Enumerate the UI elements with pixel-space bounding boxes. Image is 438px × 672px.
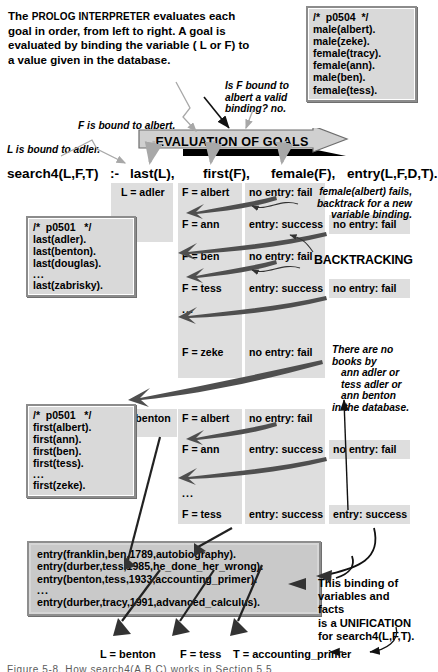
cell-first-p1-r3: F = ben xyxy=(182,250,219,262)
fact-line: first(ben). xyxy=(33,445,129,457)
evaluation-banner: EVALUATION OF GOALS xyxy=(137,128,349,157)
fact-line: last(zabrisky). xyxy=(33,279,129,291)
cell-first-p2-r3: ... xyxy=(182,487,194,499)
callout-female-fails-l1: female(albert) fails, xyxy=(300,186,412,198)
fact-line: female(ann). xyxy=(313,59,410,71)
facts-box-first: /* p0501 */ first(albert). first(ann). f… xyxy=(26,404,136,498)
cell-first-p1-r1: F = albert xyxy=(182,186,229,198)
fact-line: entry(benton,tess,1933,accounting_primer… xyxy=(37,573,313,585)
callout-is-f-bound: Is F bound to albert a valid binding? no… xyxy=(225,80,289,115)
fact-line: first(zeke). xyxy=(33,479,129,491)
rule-goal-last: last(L), xyxy=(130,166,175,181)
callout-unification: This binding of variables and facts is a… xyxy=(318,577,416,643)
callout-no-books-l4: tess adler or xyxy=(332,379,416,391)
callout-unification-l2: variables and facts xyxy=(318,590,416,616)
callout-no-books-l1: There are no xyxy=(332,344,416,356)
cell-first-p1-r6: F = zeke xyxy=(182,346,224,358)
callout-no-books-l6: in the database. xyxy=(332,402,416,414)
fact-line: female(tracy). xyxy=(313,47,410,59)
callout-no-books-l5: ann benton xyxy=(332,390,416,402)
callout-is-f-bound-l1: Is F bound to xyxy=(225,80,289,92)
cell-female-p1-r4: entry: success xyxy=(249,282,323,294)
final-binding-f: F = tess xyxy=(180,648,221,660)
fact-line: male(zeke). xyxy=(313,35,410,47)
cell-first-p1-r2: F = ann xyxy=(182,218,219,230)
facts-box-entry-database: entry(franklin,ben,1789,autobiography). … xyxy=(27,541,321,616)
callout-female-fails: female(albert) fails, backtrack for a ne… xyxy=(300,186,412,221)
col-first-pass2-bg xyxy=(178,409,242,524)
facts-box-last: /* p0501 */ last(adler). last(benton). l… xyxy=(26,216,136,297)
facts-box-last-comment: /* p0501 */ xyxy=(33,221,129,233)
fact-line: last(adler). xyxy=(33,233,129,245)
success-to-database-arrow xyxy=(330,528,375,578)
fact-line: first(albert). xyxy=(33,421,129,433)
final-binding-l: L = benton xyxy=(100,648,156,660)
callout-l-bound: L is bound to adler. xyxy=(7,144,100,156)
fact-line: ... xyxy=(37,585,313,596)
callout-no-books: There are no books by ann adler or tess … xyxy=(332,344,416,414)
facts-box-gender-comment: /* p0504 */ xyxy=(313,11,410,23)
callout-unification-l4: for search4(L,F,T). xyxy=(318,630,416,643)
fact-line: ... xyxy=(33,269,129,279)
rule-goal-female: female(F), xyxy=(271,166,335,181)
cell-entry-p1-r4: no entry: fail xyxy=(333,282,397,294)
cell-female-p2-r4: entry: success xyxy=(249,508,323,520)
callout-is-f-bound-l3: binding? no. xyxy=(225,103,289,115)
fact-line: entry(durber,tess,1985,he_done_her_wrong… xyxy=(37,560,313,572)
cell-female-p2-r2: entry: success xyxy=(249,443,323,455)
callout-no-books-l2: books by xyxy=(332,356,416,368)
col-female-pass2-bg xyxy=(245,409,325,524)
intro-line-2: goal in order, from left to right. A goa… xyxy=(8,24,300,38)
facts-box-first-comment: /* p0501 */ xyxy=(33,409,129,421)
facts-box-gender: /* p0504 */ male(albert). male(zeke). fe… xyxy=(306,6,417,102)
intro-line-1-pre: The xyxy=(8,10,32,22)
intro-line-1-post: evaluates each xyxy=(150,10,235,22)
banner-label: EVALUATION OF GOALS xyxy=(151,135,313,149)
fact-line: first(ann). xyxy=(33,433,129,445)
callout-is-f-bound-l2: albert a valid xyxy=(225,92,289,104)
callout-female-fails-l2: backtrack for a new xyxy=(300,198,412,210)
fact-line: entry(franklin,ben,1789,autobiography). xyxy=(37,548,313,560)
rule-head: search4(L,F,T) xyxy=(7,166,98,181)
fact-line: male(albert). xyxy=(313,23,410,35)
prolog-interpreter-term: PROLOG INTERPRETER xyxy=(32,11,150,22)
fact-line: entry(durber,tracy,1991,advanced_calculu… xyxy=(37,596,313,608)
fact-line: male(ben). xyxy=(313,71,410,83)
fact-line: female(tess). xyxy=(313,84,410,96)
figure-caption: Figure 5-8. How search4(A,B,C) works in … xyxy=(7,664,407,672)
callout-no-books-l3: ann adler or xyxy=(332,367,416,379)
rule-goal-first: first(F), xyxy=(203,166,250,181)
cell-female-p1-r3: no entry: fail xyxy=(249,250,313,262)
cell-first-p1-r5: ... xyxy=(182,303,194,315)
intro-line-1: The PROLOG INTERPRETER evaluates each xyxy=(8,9,300,24)
cell-entry-p2-r4: entry: success xyxy=(333,508,407,520)
rule-neck: :- xyxy=(110,166,119,181)
cell-female-p2-r1: no entry: fail xyxy=(249,412,313,424)
fact-line: last(benton). xyxy=(33,245,129,257)
fact-line: first(tess). xyxy=(33,457,129,469)
callout-female-fails-l3: variable binding. xyxy=(300,209,412,221)
cell-first-p2-r2: F = ann xyxy=(182,443,219,455)
fact-line: last(douglas). xyxy=(33,257,129,269)
cell-first-p2-r1: F = albert xyxy=(182,412,229,424)
final-binding-t: T = accounting_primer xyxy=(233,648,351,660)
callout-unification-l3: is a UNIFICATION xyxy=(318,617,416,630)
callout-backtracking: BACKTRACKING xyxy=(314,253,413,267)
rule-goal-entry: entry(L,F,D,T). xyxy=(347,166,438,181)
cell-female-p1-r6: no entry: fail xyxy=(249,346,313,358)
intro-line-4: a value given in the database. xyxy=(8,53,300,67)
fact-line: ... xyxy=(33,469,129,479)
cell-last-pass1: L = adler xyxy=(121,186,165,198)
intro-line-3: evaluated by binding the variable ( L or… xyxy=(8,38,300,52)
intro-paragraph: The PROLOG INTERPRETER evaluates each go… xyxy=(8,9,300,67)
callout-unification-l1: This binding of xyxy=(318,577,416,590)
cell-first-p2-r4: F = tess xyxy=(182,508,222,520)
cell-entry-p2-r2: no entry: fail xyxy=(333,443,397,455)
cell-first-p1-r4: F = tess xyxy=(182,282,222,294)
